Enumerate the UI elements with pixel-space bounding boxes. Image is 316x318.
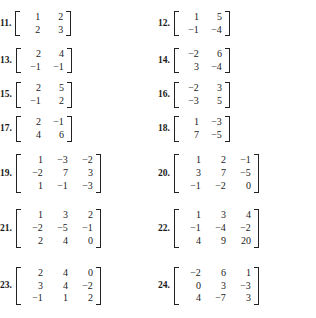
exercise-row: 11.122312.15−1−4 xyxy=(0,4,316,43)
matrix-row: 12−1 xyxy=(179,154,254,167)
right-bracket xyxy=(225,82,230,108)
matrix-row: 1−1−3 xyxy=(21,180,96,193)
matrix-entry: −3 xyxy=(46,154,71,167)
matrix-row: 24 xyxy=(21,48,67,61)
matrix-entry: −5 xyxy=(202,129,225,142)
matrix-row: −1−4 xyxy=(179,24,225,37)
exercise-item: 20.12−137−5−1−20 xyxy=(158,146,316,201)
exercise-item: 19.1−3−2−2731−1−3 xyxy=(0,146,158,201)
matrix-entry: −2 xyxy=(229,222,254,235)
matrix-row: −2−5−1 xyxy=(21,222,96,235)
matrix-row: 240 xyxy=(21,267,96,280)
matrix-body: 1223 xyxy=(20,11,66,37)
matrix-entry: 3 xyxy=(229,292,254,305)
exercise-item: 21.132−2−5−1240 xyxy=(0,201,158,256)
matrix-body: 1−37−5 xyxy=(179,116,225,142)
matrix-entry: 3 xyxy=(21,280,46,293)
matrix: 15−1−4 xyxy=(174,11,230,37)
matrix-entry: −1 xyxy=(21,95,44,108)
matrix-entry: 2 xyxy=(71,292,96,305)
matrix-row: 37−5 xyxy=(179,167,254,180)
matrix-row: −112 xyxy=(21,292,96,305)
exercise-row: 17.2−14618.1−37−5 xyxy=(0,112,316,146)
matrix-entry: 2 xyxy=(21,48,44,61)
matrix-entry: −1 xyxy=(44,61,67,74)
matrix-entry: −2 xyxy=(179,267,204,280)
matrix-entry: −7 xyxy=(204,292,229,305)
exercise-item: 16.−23−35 xyxy=(158,78,316,112)
right-bracket xyxy=(225,116,230,142)
matrix-entry: 0 xyxy=(229,180,254,193)
matrix-entry: −4 xyxy=(202,24,225,37)
matrix-entry: 2 xyxy=(21,82,44,95)
matrix-entry: 2 xyxy=(204,154,229,167)
matrix-entry: −1 xyxy=(179,180,204,193)
exercise-number: 23. xyxy=(0,281,16,291)
exercise-row: 13.24−1−114.−263−4 xyxy=(0,43,316,78)
matrix-entry: 6 xyxy=(44,129,67,142)
matrix-entry: −5 xyxy=(229,167,254,180)
matrix-entry: −3 xyxy=(179,95,202,108)
matrix-entry: 4 xyxy=(179,235,204,248)
exercise-number: 16. xyxy=(158,90,174,100)
matrix-entry: −1 xyxy=(179,24,202,37)
right-bracket xyxy=(67,82,72,108)
matrix-body: 2−146 xyxy=(21,116,67,142)
matrix-entry: 5 xyxy=(44,82,67,95)
matrix-entry: 1 xyxy=(21,180,46,193)
matrix-entry: 4 xyxy=(46,267,71,280)
matrix-entry: 1 xyxy=(179,11,202,24)
matrix-entry: 3 xyxy=(204,280,229,293)
matrix: 2−146 xyxy=(16,116,72,142)
matrix-body: 15−1−4 xyxy=(179,11,225,37)
matrix-entry: −3 xyxy=(71,180,96,193)
matrix-row: 46 xyxy=(21,129,67,142)
matrix-entry: 2 xyxy=(44,95,67,108)
matrix-entry: 3 xyxy=(179,61,202,74)
matrix-entry: 2 xyxy=(21,267,46,280)
right-bracket xyxy=(225,48,230,74)
matrix-row: 03−3 xyxy=(179,280,254,293)
right-bracket xyxy=(96,209,101,247)
matrix-row: 23 xyxy=(20,24,66,37)
matrix-entry: −4 xyxy=(202,61,225,74)
exercise-number: 19. xyxy=(0,169,16,179)
matrix-entry: 7 xyxy=(46,167,71,180)
matrix-entry: −4 xyxy=(204,222,229,235)
matrix-row: 4−73 xyxy=(179,292,254,305)
matrix-entry: 4 xyxy=(46,280,71,293)
matrix-row: −35 xyxy=(179,95,225,108)
matrix-entry: −1 xyxy=(179,222,204,235)
matrix-entry: 1 xyxy=(179,209,204,222)
matrix-entry: 1 xyxy=(21,154,46,167)
exercise-number: 15. xyxy=(0,90,16,100)
exercise-row: 19.1−3−2−2731−1−320.12−137−5−1−20 xyxy=(0,146,316,201)
matrix-row: 1−3−2 xyxy=(21,154,96,167)
matrix-row: −1−20 xyxy=(179,180,254,193)
matrix-entry: 2 xyxy=(20,24,43,37)
matrix-entry: 2 xyxy=(21,116,44,129)
matrix-row: 7−5 xyxy=(179,129,225,142)
matrix-entry: 2 xyxy=(43,11,66,24)
matrix: 132−2−5−1240 xyxy=(16,209,101,247)
matrix: 1223 xyxy=(15,11,71,37)
matrix-body: −26103−34−73 xyxy=(179,267,254,305)
matrix-entry: 5 xyxy=(202,11,225,24)
matrix: 1−3−2−2731−1−3 xyxy=(16,154,101,192)
right-bracket xyxy=(67,116,72,142)
exercise-item: 24.−26103−34−73 xyxy=(158,256,316,316)
right-bracket xyxy=(67,48,72,74)
exercise-row: 21.132−2−5−124022.134−1−4−24920 xyxy=(0,201,316,256)
right-bracket xyxy=(96,267,101,305)
matrix: −26103−34−73 xyxy=(174,267,259,305)
matrix-row: 4920 xyxy=(179,235,254,248)
matrix-entry: 4 xyxy=(229,209,254,222)
matrix-entry: 0 xyxy=(179,280,204,293)
matrix-row: 1−3 xyxy=(179,116,225,129)
matrix-entry: 1 xyxy=(229,267,254,280)
matrix: −263−4 xyxy=(174,48,230,74)
exercise-item: 15.25−12 xyxy=(0,78,158,112)
matrix-row: 25 xyxy=(21,82,67,95)
matrix-entry: −3 xyxy=(202,116,225,129)
matrix-entry: 9 xyxy=(204,235,229,248)
